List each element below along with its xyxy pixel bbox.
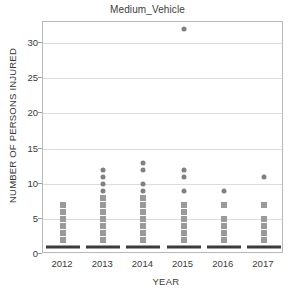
data-point xyxy=(100,230,106,236)
data-point xyxy=(140,230,146,236)
data-point xyxy=(221,188,226,193)
data-point xyxy=(60,223,66,229)
data-baseline-bar xyxy=(207,245,241,248)
data-point xyxy=(181,167,186,172)
data-point xyxy=(101,181,106,186)
y-tick-label: 0 xyxy=(12,248,38,259)
data-point xyxy=(261,223,267,229)
data-point xyxy=(261,174,266,179)
y-tick-mark xyxy=(38,148,42,149)
data-point xyxy=(60,202,66,208)
data-baseline-bar xyxy=(46,245,80,248)
data-point xyxy=(140,195,146,201)
data-point xyxy=(221,216,227,222)
data-point xyxy=(100,202,106,208)
gridline xyxy=(43,43,282,44)
data-point xyxy=(60,230,66,236)
plot-inner xyxy=(43,22,282,252)
data-point xyxy=(140,202,146,208)
x-tick-label: 2013 xyxy=(92,258,113,269)
y-tick-mark xyxy=(38,183,42,184)
chart-title: Medium_Vehicle xyxy=(0,4,295,15)
gridline xyxy=(43,113,282,114)
y-tick-label: 25 xyxy=(12,72,38,83)
data-point xyxy=(141,160,146,165)
data-point xyxy=(100,216,106,222)
y-tick-label: 15 xyxy=(12,142,38,153)
data-point xyxy=(181,237,187,243)
data-point xyxy=(140,216,146,222)
y-tick-mark xyxy=(38,42,42,43)
x-axis-title: YEAR xyxy=(42,276,290,287)
y-tick-mark xyxy=(38,253,42,254)
data-point xyxy=(141,188,146,193)
data-point xyxy=(221,237,227,243)
data-point xyxy=(261,237,267,243)
data-point xyxy=(261,230,267,236)
data-point xyxy=(100,209,106,215)
y-tick-label: 10 xyxy=(12,177,38,188)
data-baseline-bar xyxy=(126,245,160,248)
y-tick-mark xyxy=(38,77,42,78)
data-point xyxy=(141,181,146,186)
data-point xyxy=(261,216,267,222)
chart-figure: Medium_Vehicle NUMBER OF PERSONS INJURED… xyxy=(0,0,295,298)
data-point xyxy=(100,223,106,229)
data-point xyxy=(181,216,187,222)
data-point xyxy=(140,223,146,229)
data-baseline-bar xyxy=(86,245,120,248)
gridline xyxy=(43,149,282,150)
data-point xyxy=(140,237,146,243)
data-point xyxy=(60,237,66,243)
x-tick-label: 2012 xyxy=(52,258,73,269)
plot-area xyxy=(42,21,283,253)
data-point xyxy=(221,223,227,229)
data-point xyxy=(181,202,187,208)
data-point xyxy=(181,174,186,179)
data-baseline-bar xyxy=(167,245,201,248)
data-point xyxy=(60,209,66,215)
data-point xyxy=(181,188,186,193)
data-point xyxy=(140,209,146,215)
gridline xyxy=(43,78,282,79)
data-point xyxy=(100,195,106,201)
gridline xyxy=(43,184,282,185)
y-tick-label: 5 xyxy=(12,212,38,223)
data-point xyxy=(261,202,267,208)
data-point xyxy=(60,216,66,222)
data-point xyxy=(221,202,227,208)
x-tick-label: 2014 xyxy=(132,258,153,269)
data-point xyxy=(181,230,187,236)
y-tick-mark xyxy=(38,112,42,113)
data-point xyxy=(181,209,187,215)
y-tick-label: 20 xyxy=(12,107,38,118)
data-point xyxy=(181,27,186,32)
data-baseline-bar xyxy=(247,245,281,248)
y-tick-mark xyxy=(38,218,42,219)
data-point xyxy=(221,230,227,236)
data-point xyxy=(181,223,187,229)
data-point xyxy=(101,174,106,179)
data-point xyxy=(101,188,106,193)
data-point xyxy=(141,167,146,172)
x-tick-label: 2017 xyxy=(252,258,273,269)
data-point xyxy=(101,167,106,172)
gridline xyxy=(43,219,282,220)
x-tick-label: 2015 xyxy=(172,258,193,269)
data-point xyxy=(100,237,106,243)
x-tick-label: 2016 xyxy=(212,258,233,269)
y-tick-label: 30 xyxy=(12,37,38,48)
